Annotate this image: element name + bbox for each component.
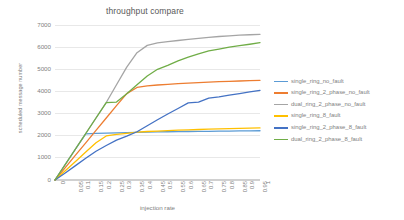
legend-item-label: single_ring_2_phase_no_fault [291,90,370,96]
x-axis-tick-label: 0.45 [161,181,167,192]
legend-item-label: dual_ring_2_phase_8_fault [291,137,362,143]
legend-item[interactable]: single_ring_8_fault [274,111,400,122]
x-axis-tick-label: 1 [266,181,272,184]
x-axis-tick-label: 0.7 [209,181,215,189]
legend-color-swatch [274,139,288,141]
legend-color-swatch [274,81,288,83]
x-axis-tick-label: 0.65 [202,181,208,192]
legend-item-label: single_ring_2_phase_8_fault [291,125,366,131]
legend-item-label: single_ring_8_fault [291,113,340,119]
x-axis-tick-label: 0.35 [141,181,147,192]
chart-legend: single_ring_no_faultsingle_ring_2_phase_… [274,76,400,146]
y-axis-tick-label: 2000 [27,132,51,138]
chart-title: throughput compare [0,6,290,16]
legend-item[interactable]: dual_ring_2_phase_8_fault [274,134,400,145]
x-axis-tick-label: 0.15 [100,181,106,192]
x-axis-tick-label: 0.3 [127,181,133,189]
legend-item-label: dual_ring_2_phase_no_fault [291,102,365,108]
x-axis-tick-label: 0.5 [168,181,174,189]
legend-color-swatch [274,104,288,106]
series-line [55,90,260,180]
legend-color-swatch [274,127,288,129]
legend-item[interactable]: single_ring_2_phase_no_fault [274,88,400,99]
legend-item-label: single_ring_no_fault [291,79,344,85]
x-axis-title: injection rate [55,204,260,211]
x-axis-tick-label: 0.55 [182,181,188,192]
x-axis-tick-label: 0.1 [86,181,92,189]
y-axis-tick-label: 1000 [27,154,51,160]
x-axis-tick-label: 0.9 [250,181,256,189]
legend-color-swatch [274,92,288,94]
y-axis-tick-label: 6000 [27,44,51,50]
x-axis-tick-label: 0.8 [230,181,236,189]
plot-area [55,25,260,180]
x-axis-tick-label: 0.4 [148,181,154,189]
y-axis-tick-labels: 01000200030004000500060007000 [27,22,51,180]
series-lines [55,25,260,180]
x-axis-tick-label: 0.6 [189,181,195,189]
series-line [55,130,260,179]
legend-item[interactable]: single_ring_2_phase_8_fault [274,122,400,133]
y-axis-title: scheduled message number [17,48,23,148]
legend-item[interactable]: dual_ring_2_phase_no_fault [274,99,400,110]
legend-item[interactable]: single_ring_no_fault [274,76,400,87]
y-axis-tick-label: 4000 [27,88,51,94]
x-axis-tick-label: 0.05 [79,181,85,192]
legend-color-swatch [274,115,288,117]
x-axis-tick-label: 0 [61,181,67,184]
series-line [55,127,260,179]
x-axis-tick-label: 0.25 [120,181,126,192]
series-line [55,42,260,179]
x-axis-tick-label: 0.85 [243,181,249,192]
chart-container: throughput compare scheduled message num… [0,0,404,220]
x-axis-tick-label: 0.2 [107,181,113,189]
y-axis-tick-label: 5000 [27,66,51,72]
y-axis-tick-label: 7000 [27,21,51,27]
x-axis-tick-labels: 00.050.10.150.20.250.30.350.40.450.50.55… [55,181,260,205]
y-axis-tick-label: 3000 [27,110,51,116]
x-axis-tick-label: 0.75 [223,181,229,192]
y-axis-tick-label: 0 [27,176,51,182]
